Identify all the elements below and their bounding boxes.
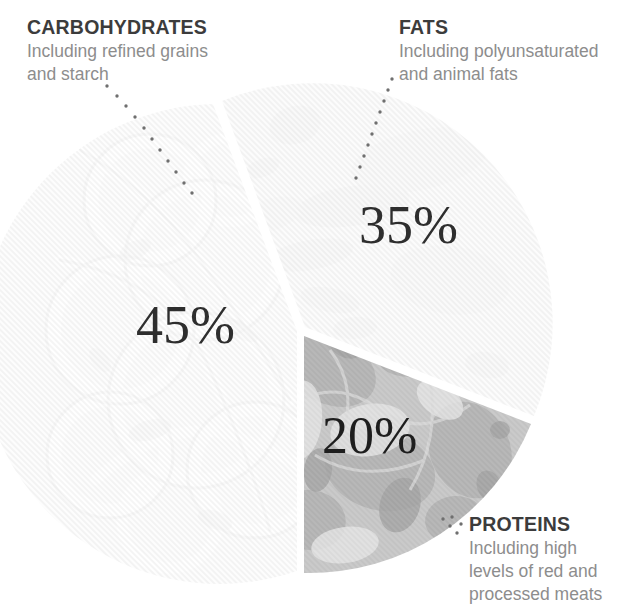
callout-description-line: and starch <box>27 63 208 86</box>
callout-description-line: and animal fats <box>399 63 598 86</box>
callout-title-fats: FATS <box>399 16 598 39</box>
callout-title-carbohydrates: CARBOHYDRATES <box>27 16 208 39</box>
callout-description-line: Including refined grains <box>27 40 208 63</box>
callout-description-line: Including high <box>469 537 602 560</box>
pie-value-label-fats: 35% <box>359 198 458 252</box>
pie-value-label-carbohydrates: 45% <box>136 298 235 352</box>
callout-description-fats: Including polyunsaturated and animal fat… <box>399 40 598 86</box>
callout-carbohydrates: CARBOHYDRATES Including refined grains a… <box>27 16 208 86</box>
pie-value-label-proteins: 20% <box>322 410 417 462</box>
callout-description-line: levels of red and <box>469 560 602 583</box>
callout-title-proteins: PROTEINS <box>469 513 602 536</box>
callout-description-line: processed meats <box>469 583 602 606</box>
callout-description-line: Including polyunsaturated <box>399 40 598 63</box>
infographic-canvas: 45% 35% 20% CARBOHYDRATES Including refi… <box>0 0 631 615</box>
callout-description-proteins: Including high levels of red and process… <box>469 537 602 606</box>
callout-proteins: PROTEINS Including high levels of red an… <box>469 513 602 606</box>
callout-fats: FATS Including polyunsaturated and anima… <box>399 16 598 86</box>
callout-description-carbohydrates: Including refined grains and starch <box>27 40 208 86</box>
